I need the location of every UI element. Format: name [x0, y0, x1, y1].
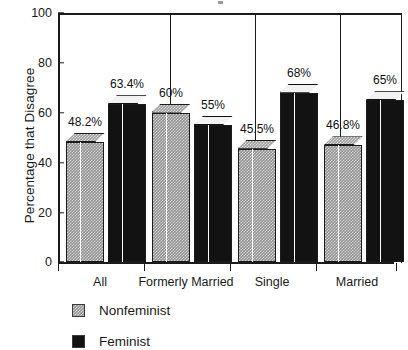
- bar-value-label: 48.2%: [68, 115, 102, 129]
- bar-top-face: [108, 95, 147, 104]
- legend-label-nonfeminist: Nonfeminist: [99, 303, 170, 318]
- bar-front-face: [66, 142, 104, 262]
- bar-top-face: [324, 136, 363, 145]
- bar-married-nonfeminist: [324, 145, 362, 262]
- bar-top-face: [238, 140, 277, 149]
- y-tick-label-40: 40: [26, 156, 52, 170]
- bar-top-face: [194, 116, 233, 125]
- y-tick-label-60: 60: [26, 106, 52, 120]
- bar-corner-seam: [80, 142, 82, 262]
- x-tick-mark-0: [58, 263, 59, 271]
- bar-corner-seam: [208, 125, 210, 262]
- x-tick-mark-1: [144, 263, 145, 271]
- y-tick-label-0: 0: [26, 255, 52, 269]
- legend-swatch-feminist: [72, 335, 85, 348]
- legend-swatch-nonfeminist: [72, 304, 85, 317]
- y-tick-label-20: 20: [26, 206, 52, 220]
- bar-value-label: 46.8%: [326, 118, 360, 132]
- bar-front-face: [108, 104, 146, 262]
- bar-value-label: 55%: [201, 98, 225, 112]
- bar-all-feminist: [108, 104, 146, 262]
- bar-corner-seam: [166, 113, 168, 262]
- x-axis-label-single: Single: [255, 275, 290, 289]
- bar-all-nonfeminist: [66, 142, 104, 262]
- bar-front-face: [324, 145, 362, 262]
- bar-top-face: [66, 133, 105, 142]
- bar-value-label: 65%: [373, 73, 397, 87]
- y-tick-label-100: 100: [26, 6, 52, 20]
- legend-label-feminist: Feminist: [99, 334, 150, 349]
- x-axis-label-formerly-married: Formerly Married: [138, 275, 233, 289]
- legend-item-nonfeminist: Nonfeminist: [72, 303, 170, 318]
- x-axis-label-married: Married: [336, 275, 378, 289]
- bar-top-face: [366, 91, 405, 100]
- bar-formerly-married-feminist: [194, 125, 232, 262]
- bar-front-face: [152, 113, 190, 262]
- bar-value-label: 60%: [159, 86, 183, 100]
- bar-corner-seam: [338, 145, 340, 262]
- bar-chart: Percentage that Disagree 100 80 60 40 20…: [0, 0, 408, 350]
- bar-top-face: [152, 104, 191, 113]
- bar-married-feminist: [366, 100, 404, 262]
- bar-front-face: [194, 125, 232, 262]
- bar-top-face: [280, 84, 319, 93]
- bar-corner-seam: [380, 100, 382, 262]
- bar-corner-seam: [122, 104, 124, 262]
- bar-front-face: [280, 93, 318, 262]
- plot-frame-top: [58, 13, 402, 15]
- bar-value-label: 68%: [287, 66, 311, 80]
- plot-frame-left: [58, 13, 60, 263]
- y-tick-label-80: 80: [26, 56, 52, 70]
- bar-single-feminist: [280, 93, 318, 262]
- cropped-title-artifact: [218, 1, 223, 4]
- bar-corner-seam: [294, 93, 296, 262]
- legend-item-feminist: Feminist: [72, 334, 150, 349]
- bar-formerly-married-nonfeminist: [152, 113, 190, 262]
- bar-front-face: [238, 149, 276, 262]
- bar-single-nonfeminist: [238, 149, 276, 262]
- bar-value-label: 45.5%: [240, 122, 274, 136]
- baseline-depth-edge: [58, 252, 60, 263]
- x-tick-mark-2: [230, 263, 231, 271]
- bar-front-face: [366, 100, 404, 262]
- bar-corner-seam: [252, 149, 254, 262]
- x-tick-mark-3: [316, 263, 317, 271]
- x-axis-label-all: All: [93, 275, 107, 289]
- plot-baseline: [58, 262, 394, 264]
- x-tick-mark-4: [396, 263, 397, 271]
- bar-value-label: 63.4%: [110, 77, 144, 91]
